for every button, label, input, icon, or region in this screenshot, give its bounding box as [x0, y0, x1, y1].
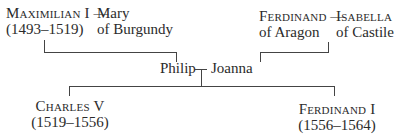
maximilian-name: Maximilian I [6, 5, 90, 21]
joanna-name: Joanna [211, 60, 253, 77]
children-branch-line [69, 86, 335, 87]
children-drop-line [201, 69, 202, 86]
ferdinand-aragon-title: of Aragon [259, 24, 319, 41]
ferdinand-i-dates: (1556–1564) [292, 117, 382, 134]
ferdinand-i-drop-line [334, 86, 335, 96]
mary-title: of Burgundy [97, 21, 173, 38]
isabella-branch-line [260, 52, 329, 53]
philip-name: Philip [160, 60, 196, 77]
mary-name: Mary [97, 5, 130, 22]
isabella-title: of Castile [336, 24, 394, 41]
charles-drop-line [69, 86, 70, 96]
joanna-drop-line [260, 52, 261, 62]
charles-v-name: Charles V [30, 98, 110, 115]
maximilian-drop-line [44, 40, 45, 52]
ferdinand-i-name: Ferdinand I [292, 101, 382, 118]
maximilian-branch-line [44, 52, 177, 53]
isabella-name: Isabella [336, 8, 392, 25]
ferdinand-aragon-name: Ferdinand [259, 8, 327, 24]
ferdinand-aragon-node: Ferdinand — [259, 8, 345, 25]
maximilian-dates: (1493–1519) [6, 21, 84, 38]
charles-v-dates: (1519–1556) [30, 114, 110, 131]
maximilian-node: Maximilian I — [6, 5, 109, 22]
